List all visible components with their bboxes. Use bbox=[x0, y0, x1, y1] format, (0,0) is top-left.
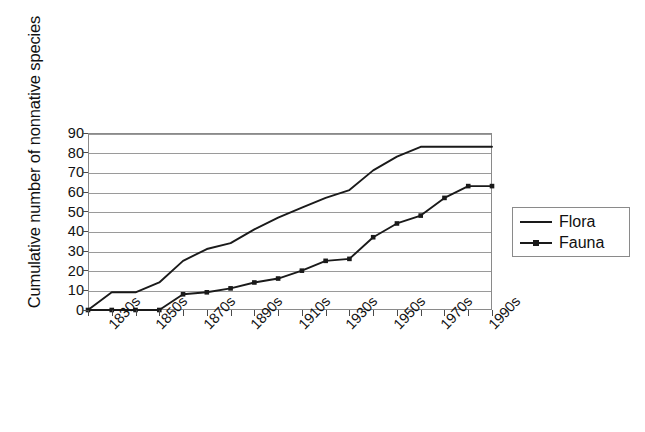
y-tick-mark bbox=[82, 290, 88, 291]
series-marker-fauna bbox=[347, 257, 352, 262]
x-tick-mark bbox=[468, 310, 469, 316]
y-tick-mark bbox=[82, 172, 88, 173]
y-tick-mark bbox=[82, 152, 88, 153]
x-tick-mark bbox=[231, 310, 232, 316]
x-tick-mark bbox=[183, 310, 184, 316]
x-tick-mark bbox=[278, 310, 279, 316]
chart-legend: Flora Fauna bbox=[512, 207, 630, 257]
series-marker-fauna bbox=[205, 290, 210, 295]
y-tick-mark bbox=[82, 231, 88, 232]
x-tick-mark bbox=[421, 310, 422, 316]
x-tick-mark bbox=[88, 310, 89, 316]
series-marker-fauna bbox=[466, 184, 471, 189]
y-tick-mark bbox=[82, 310, 88, 311]
data-series-layer bbox=[88, 133, 492, 310]
y-tick-mark bbox=[82, 251, 88, 252]
y-tick-mark bbox=[82, 270, 88, 271]
legend-label-fauna: Fauna bbox=[559, 235, 604, 251]
series-line-fauna bbox=[88, 186, 492, 310]
legend-swatch-fauna bbox=[519, 236, 553, 250]
series-marker-fauna bbox=[395, 221, 400, 226]
series-marker-fauna bbox=[442, 196, 447, 201]
chart-figure: Cumulative number of nonnative species 0… bbox=[0, 0, 645, 432]
series-marker-fauna bbox=[418, 213, 423, 218]
y-axis-tick-labels: 0102030405060708090 bbox=[54, 133, 84, 310]
series-line-flora bbox=[88, 147, 492, 310]
x-tick-mark bbox=[326, 310, 327, 316]
legend-swatch-flora bbox=[519, 215, 553, 229]
y-axis-title: Cumulative number of nonnative species bbox=[18, 12, 50, 312]
legend-entry-fauna: Fauna bbox=[519, 232, 623, 253]
legend-label-flora: Flora bbox=[559, 214, 595, 230]
series-marker-fauna bbox=[228, 286, 233, 291]
legend-entry-flora: Flora bbox=[519, 211, 623, 232]
series-marker-fauna bbox=[300, 268, 305, 273]
x-tick-mark bbox=[136, 310, 137, 316]
series-marker-fauna bbox=[371, 235, 376, 240]
series-marker-fauna bbox=[323, 259, 328, 264]
y-tick-mark bbox=[82, 192, 88, 193]
y-tick-mark bbox=[82, 211, 88, 212]
series-marker-fauna bbox=[252, 280, 257, 285]
series-marker-fauna bbox=[490, 184, 495, 189]
x-tick-mark bbox=[373, 310, 374, 316]
series-marker-fauna bbox=[276, 276, 281, 281]
y-tick-mark bbox=[82, 133, 88, 134]
